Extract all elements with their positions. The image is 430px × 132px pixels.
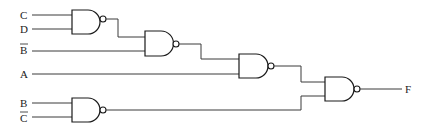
input-label-b-bar: B bbox=[20, 44, 27, 56]
inversion-bubble bbox=[173, 41, 179, 47]
wire-g3-out bbox=[274, 66, 325, 82]
nand-gate-3 bbox=[239, 54, 268, 78]
output-label-f: F bbox=[405, 83, 411, 95]
wire-g1-out bbox=[106, 19, 145, 37]
input-label-c-bar: C bbox=[20, 112, 27, 124]
inversion-bubble bbox=[268, 63, 274, 69]
wire-g2-out bbox=[179, 44, 239, 59]
inversion-bubble bbox=[100, 107, 106, 113]
inversion-bubble bbox=[354, 86, 360, 92]
input-label-a: A bbox=[20, 68, 28, 80]
inversion-bubble bbox=[100, 16, 106, 22]
input-label-d: D bbox=[20, 23, 28, 35]
wire-g5-out bbox=[106, 96, 325, 110]
input-label-b: B bbox=[20, 97, 27, 109]
nand-gate-5 bbox=[72, 98, 100, 122]
nand-gate-1 bbox=[72, 10, 100, 34]
logic-circuit: C D B A B C F bbox=[0, 0, 430, 132]
nand-gate-2 bbox=[145, 31, 174, 56]
nand-gate-4 bbox=[325, 77, 354, 101]
input-label-c: C bbox=[20, 9, 27, 21]
